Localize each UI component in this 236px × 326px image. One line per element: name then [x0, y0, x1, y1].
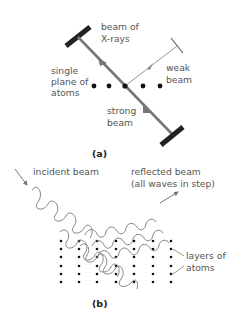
strong-beam-detector-bar: [161, 127, 183, 145]
incident-arrow-icon: [15, 169, 27, 185]
layers-pointer-1: [173, 249, 184, 256]
label-incident-beam: incident beam: [33, 166, 99, 177]
incident-wave-2: [60, 230, 119, 277]
atom-grid: [60, 240, 173, 284]
caption-a: (a): [92, 148, 107, 159]
layers-pointer-2: [173, 266, 184, 274]
figure-a: beam of X-rays single plane of atoms wea…: [51, 21, 193, 159]
weak-beam-detector-tick: [171, 38, 183, 53]
label-beam-of-xrays: beam of X-rays: [101, 21, 142, 44]
atom: [122, 83, 127, 88]
label-strong-beam: strong beam: [107, 105, 139, 128]
weak-beam-arrow-icon: [147, 63, 153, 70]
incident-waves: [32, 187, 138, 289]
reflected-wave-1: [85, 219, 156, 237]
atom: [107, 84, 112, 89]
atom: [158, 84, 163, 89]
label-layers-of-atoms: layers of atoms: [186, 250, 229, 273]
label-weak-beam: weak beam: [166, 62, 193, 85]
atom: [92, 84, 97, 89]
reflected-arrow-icon: [160, 192, 178, 203]
caption-b: (b): [92, 298, 107, 309]
strong-beam-arrow-icon: [143, 105, 151, 113]
xray-source-bar: [66, 27, 90, 46]
reflected-wave-2: [92, 230, 163, 248]
atom: [141, 84, 146, 89]
label-single-plane-of-atoms: single plane of atoms: [51, 65, 91, 98]
label-reflected-beam: reflected beam (all waves in step): [131, 166, 215, 189]
figure-b: incident beam reflected beam (all waves …: [15, 166, 229, 309]
xray-diffraction-diagram: beam of X-rays single plane of atoms wea…: [0, 0, 236, 326]
